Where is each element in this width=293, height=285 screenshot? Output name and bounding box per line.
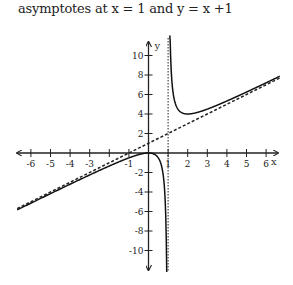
x-tick-label: 3 bbox=[204, 159, 210, 169]
y-tick-label: 4 bbox=[138, 109, 144, 119]
x-axis-label: x bbox=[271, 156, 277, 167]
y-tick-label: -4 bbox=[135, 187, 144, 197]
x-tick-label: 6 bbox=[263, 159, 269, 169]
y-tick-label: 2 bbox=[138, 129, 144, 139]
x-tick-label: -6 bbox=[27, 159, 36, 169]
x-tick-label: -1 bbox=[125, 159, 134, 169]
y-tick-label: -10 bbox=[129, 246, 144, 256]
chart-plot: xy -6-5-4-3-1123456-10-8-6-4-2246810 bbox=[0, 0, 293, 285]
y-tick-label: 6 bbox=[138, 90, 144, 100]
x-tick-label: -5 bbox=[46, 159, 55, 169]
x-tick-label: -3 bbox=[85, 159, 94, 169]
y-tick-label: -8 bbox=[135, 226, 144, 236]
x-tick-label: 4 bbox=[224, 159, 230, 169]
curve-left-branch bbox=[17, 153, 167, 272]
curve-right-branch bbox=[169, 36, 279, 114]
y-tick-label: 10 bbox=[132, 51, 144, 61]
x-tick-label: 2 bbox=[185, 159, 191, 169]
y-tick-label: -6 bbox=[135, 207, 144, 217]
y-axis-label: y bbox=[154, 40, 161, 51]
x-tick-label: -4 bbox=[66, 159, 75, 169]
x-tick-label: 5 bbox=[244, 159, 250, 169]
y-tick-label: -2 bbox=[135, 168, 144, 178]
y-tick-label: 8 bbox=[138, 70, 144, 80]
